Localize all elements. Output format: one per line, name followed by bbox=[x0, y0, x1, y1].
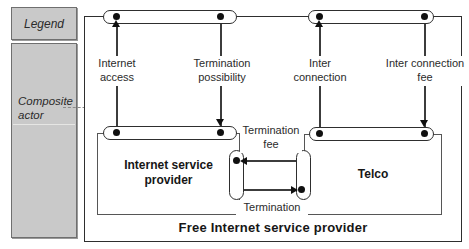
arrowhead-up-internet-access bbox=[112, 20, 120, 27]
connector-label-termination: Termination bbox=[236, 200, 308, 216]
port-dot bbox=[298, 186, 305, 193]
line-termination-fee bbox=[241, 160, 298, 162]
port-dot bbox=[316, 13, 323, 20]
arrowhead-down-termination-possibility bbox=[216, 119, 224, 126]
legend-separator bbox=[13, 124, 75, 125]
isp-actor-title: Internet service provider bbox=[98, 158, 239, 188]
arrowhead-up-inter-connection bbox=[315, 20, 323, 27]
legend-title: Legend bbox=[24, 17, 64, 31]
value-network-diagram: Legend Composite actor Internet service … bbox=[0, 0, 469, 249]
telco-actor-box: Telco bbox=[304, 134, 442, 215]
port-dot bbox=[421, 13, 428, 20]
port-dot bbox=[113, 129, 120, 136]
connector-label-inter-connection: Inter connection bbox=[288, 56, 352, 86]
port-dot bbox=[113, 13, 120, 20]
port-strip-boundary-right bbox=[308, 10, 434, 24]
connector-label-inter-connection-fee: Inter connection fee bbox=[383, 56, 467, 86]
arrowhead-right-termination bbox=[291, 186, 298, 194]
arrowhead-left-termination-fee bbox=[240, 157, 247, 165]
port-dot bbox=[421, 130, 428, 137]
port-dot bbox=[233, 157, 240, 164]
legend-body-box: Composite actor bbox=[11, 43, 77, 238]
port-dot bbox=[217, 129, 224, 136]
legend-item-composite-actor: Composite actor bbox=[18, 94, 74, 123]
isp-actor-box: Internet service provider bbox=[97, 133, 240, 215]
port-dot bbox=[217, 13, 224, 20]
legend-title-box: Legend bbox=[11, 7, 77, 40]
connector-label-termination-possibility: Termination possibility bbox=[182, 56, 262, 86]
port-dot bbox=[316, 130, 323, 137]
port-strip-telco-left bbox=[296, 150, 311, 200]
telco-actor-title: Telco bbox=[305, 167, 441, 182]
connector-label-internet-access: Internet access bbox=[87, 56, 147, 86]
arrowhead-down-inter-connection-fee bbox=[420, 120, 428, 127]
connector-label-termination-fee: Termination fee bbox=[240, 123, 302, 153]
free-isp-boundary-label: Free Internet service provider bbox=[84, 220, 462, 235]
port-strip-telco-top bbox=[309, 127, 434, 141]
